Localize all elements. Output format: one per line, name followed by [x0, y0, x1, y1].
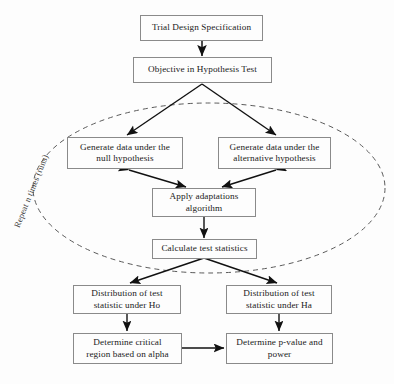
node-apply-adaptations-algorithm[interactable]: Apply adaptations algorithm: [152, 188, 256, 217]
arrow-calculate-to-ho: [130, 258, 204, 283]
flowchart-canvas: Trial Design Specification Objective in …: [0, 0, 394, 384]
node-label: Determine p-value and power: [236, 337, 322, 360]
node-trial-design-specification[interactable]: Trial Design Specification: [140, 15, 263, 41]
node-label: Distribution of test statistic under Ha: [243, 288, 314, 311]
arrow-null-to-adaptations: [129, 170, 186, 187]
node-label: Distribution of test statistic under Ho: [91, 288, 162, 311]
node-determine-critical-region[interactable]: Determine critical region based on alpha: [73, 333, 182, 364]
node-label: Generate data under the alternative hypo…: [230, 142, 320, 165]
node-determine-p-value-power[interactable]: Determine p-value and power: [226, 333, 333, 364]
node-label: Objective in Hypothesis Test: [148, 64, 257, 76]
node-label: Calculate test statistics: [161, 243, 247, 255]
node-label: Determine critical region based on alpha: [86, 337, 168, 360]
node-generate-data-null[interactable]: Generate data under the null hypothesis: [67, 137, 183, 169]
node-objective-in-hypothesis-test[interactable]: Objective in Hypothesis Test: [133, 57, 272, 83]
node-label: Trial Design Specification: [152, 22, 251, 34]
arrow-calculate-to-ha: [204, 258, 277, 283]
arrow-alternative-to-adaptations: [222, 170, 276, 187]
node-distribution-under-ho[interactable]: Distribution of test statistic under Ho: [73, 285, 181, 314]
node-label: Apply adaptations algorithm: [170, 191, 239, 214]
node-calculate-test-statistics[interactable]: Calculate test statistics: [152, 239, 257, 259]
node-label: Generate data under the null hypothesis: [80, 142, 170, 165]
node-generate-data-alternative[interactable]: Generate data under the alternative hypo…: [218, 137, 331, 169]
arrow-objective-to-alternative: [202, 84, 276, 135]
node-distribution-under-ha[interactable]: Distribution of test statistic under Ha: [226, 285, 332, 314]
arrow-objective-to-null: [127, 84, 202, 135]
